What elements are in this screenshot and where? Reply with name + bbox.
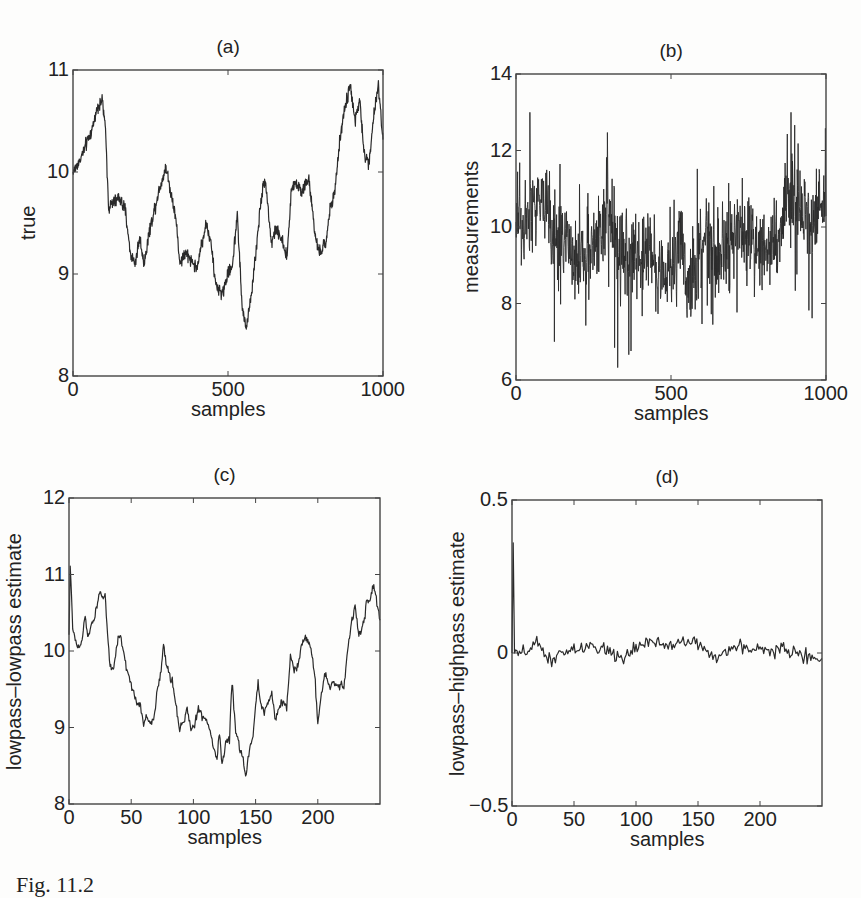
y-axis-label: lowpass–lowpass estimate — [3, 533, 26, 770]
plot-area — [73, 70, 383, 376]
y-tick-label: 12 — [43, 486, 65, 509]
y-tick-label: −0.5 — [469, 794, 508, 817]
x-axis-label: samples — [634, 402, 708, 425]
panel-title: (b) — [660, 40, 683, 62]
x-tick-label: 50 — [120, 806, 142, 829]
y-axis-label: measurements — [460, 161, 483, 293]
x-tick-label: 0 — [511, 382, 522, 405]
plot-area — [512, 500, 822, 806]
x-tick-label: 1000 — [804, 382, 849, 405]
y-axis-label: lowpass–highpass estimate — [446, 531, 469, 776]
x-tick-label: 50 — [563, 808, 585, 831]
panel-a-true-signal: 05001000891011(a)samplestrue — [73, 70, 383, 376]
data-line — [516, 112, 826, 367]
y-tick-label: 12 — [490, 139, 512, 162]
y-tick-label: 0 — [497, 641, 508, 664]
y-tick-label: 0.5 — [480, 488, 508, 511]
data-line — [69, 566, 380, 776]
plot-area — [69, 498, 380, 804]
y-tick-label: 9 — [58, 262, 69, 285]
x-tick-label: 200 — [744, 808, 777, 831]
x-axis-label: samples — [188, 826, 262, 849]
x-axis-label: samples — [191, 398, 265, 421]
x-tick-label: 0 — [68, 378, 79, 401]
y-tick-label: 10 — [47, 160, 69, 183]
panel-d-lowpass-highpass-estimate: 050100150200−0.500.5(d)sampleslowpass–hi… — [512, 500, 822, 806]
y-tick-label: 10 — [43, 639, 65, 662]
panel-b-measurements: 0500100068101214(b)samplesmeasurements — [516, 74, 826, 380]
y-tick-label: 8 — [54, 792, 65, 815]
x-axis-label: samples — [630, 828, 704, 851]
x-tick-label: 0 — [64, 806, 75, 829]
panel-title: (d) — [656, 466, 679, 488]
y-tick-label: 6 — [501, 368, 512, 391]
x-tick-label: 1000 — [361, 378, 406, 401]
panel-c-lowpass-lowpass-estimate: 05010015020089101112(c)sampleslowpass–lo… — [69, 498, 380, 804]
plot-area — [516, 74, 826, 380]
y-tick-label: 9 — [54, 716, 65, 739]
y-axis-label: true — [17, 206, 40, 240]
y-tick-label: 8 — [501, 292, 512, 315]
y-tick-label: 14 — [490, 62, 512, 85]
y-tick-label: 10 — [490, 215, 512, 238]
y-tick-label: 11 — [48, 58, 69, 81]
x-tick-label: 200 — [301, 806, 334, 829]
axes-box — [73, 70, 383, 376]
y-tick-label: 11 — [44, 563, 65, 586]
figure-caption: Fig. 11.2 — [16, 872, 94, 898]
panel-title: (a) — [217, 36, 240, 58]
y-tick-label: 8 — [58, 364, 69, 387]
data-line — [73, 81, 383, 330]
panel-title: (c) — [214, 464, 236, 486]
data-line — [512, 543, 822, 667]
